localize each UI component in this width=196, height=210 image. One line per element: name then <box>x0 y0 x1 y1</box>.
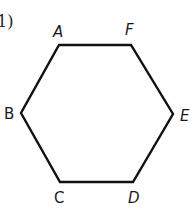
hexagon-shape <box>21 45 173 182</box>
vertex-label-b: B <box>4 105 14 123</box>
vertex-label-e: E <box>180 107 190 125</box>
vertex-label-c: C <box>54 189 64 207</box>
vertex-label-d: D <box>128 189 140 207</box>
problem-number: 1) <box>0 12 13 31</box>
vertex-label-a: A <box>52 23 63 41</box>
vertex-label-f: F <box>125 21 134 39</box>
hexagon-diagram: 1) A F B E C D <box>0 0 196 210</box>
